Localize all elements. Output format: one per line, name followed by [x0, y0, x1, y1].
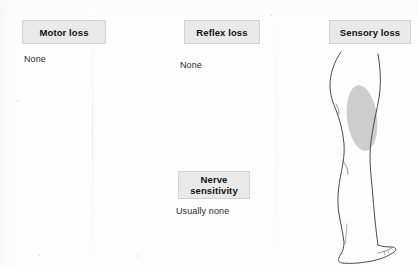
- ankle-tendon: [345, 224, 347, 244]
- scan-speck: [17, 100, 19, 102]
- toe-detail: [384, 251, 385, 255]
- knee-crease: [343, 161, 348, 174]
- scan-speck: [38, 254, 40, 256]
- value-nerve-sensitivity: Usually none: [176, 206, 229, 216]
- leg-anterior-outline: [370, 54, 380, 245]
- scan-speck: [137, 255, 139, 257]
- label-box-sensory-loss: Sensory loss: [329, 20, 411, 44]
- leg-posterior-outline: [330, 52, 344, 254]
- foot-toe-line: [378, 248, 392, 253]
- label-box-motor-loss: Motor loss: [22, 20, 106, 44]
- foot-outline: [339, 245, 396, 263]
- scan-speck: [270, 14, 272, 16]
- value-reflex-loss: None: [180, 60, 202, 70]
- label-box-reflex-loss: Reflex loss: [184, 20, 260, 44]
- scan-streak: [276, 0, 277, 267]
- nerve-sensitivity-label-line2: sensitivity: [190, 185, 238, 196]
- value-motor-loss: None: [24, 54, 46, 64]
- diagram-canvas: Motor loss None Reflex loss None Nerve s…: [0, 0, 418, 267]
- nerve-sensitivity-label-line1: Nerve: [201, 174, 228, 185]
- label-box-nerve-sensitivity: Nerve sensitivity: [178, 171, 250, 199]
- leg-diagram: [318, 48, 404, 264]
- toe-detail: [388, 250, 389, 253]
